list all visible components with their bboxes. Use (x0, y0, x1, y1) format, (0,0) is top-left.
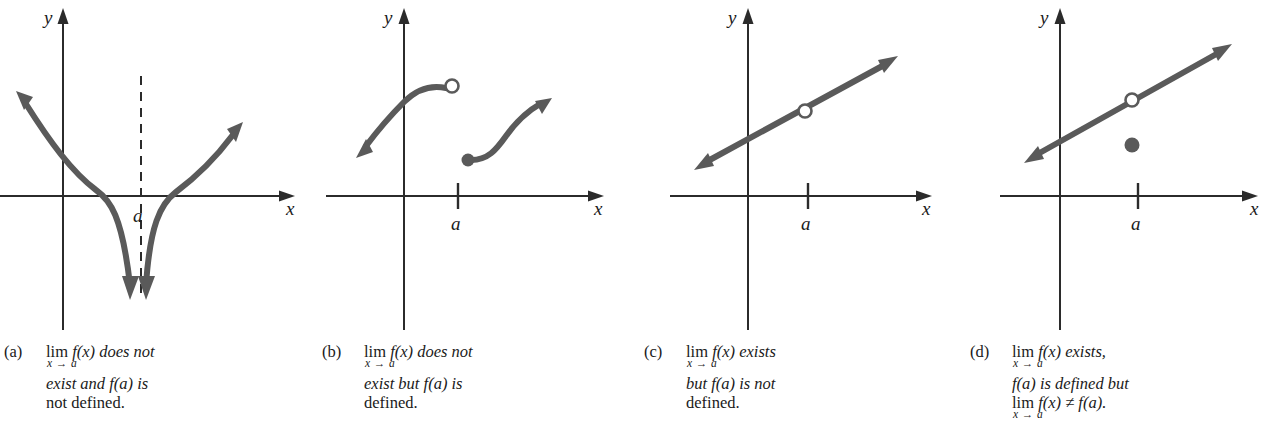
limit-operator: limx → a (364, 344, 386, 361)
arrowhead-downleft-c (694, 153, 714, 170)
filled-dot-d (1125, 138, 1140, 153)
curve-left-branch-a (26, 104, 130, 285)
caption-line: exist and f(a) is (46, 376, 318, 393)
caption-line-tail: f(x) does not (390, 342, 472, 361)
tick-label-d: a (1131, 213, 1141, 234)
caption-line-tail: f(x) exists, (1038, 342, 1106, 361)
curve-right-branch-b (471, 104, 540, 160)
caption-line-tail: f(x) ≠ f(a). (1038, 393, 1106, 412)
filled-dot-b (462, 154, 475, 167)
caption-line: limx → a f(x) exists, (1012, 344, 1271, 374)
panel-b: y x a (b) limx → a f(x) does not exi (318, 0, 636, 447)
axes-b (326, 8, 604, 330)
caption-line: limx → a f(x) does not (364, 344, 636, 374)
graph-d: y x a (958, 0, 1271, 340)
axes-c (670, 8, 932, 330)
caption-line-tail: f(x) does not (72, 342, 154, 361)
caption-line: f(a) is defined but (1012, 376, 1271, 393)
graph-a: y x a (0, 0, 318, 340)
panel-d: y x a (d) limx → a f(x) exists, f(a) is … (958, 0, 1271, 447)
caption-a: (a) limx → a f(x) does not exist and f(a… (0, 344, 318, 411)
caption-line: limx → a f(x) ≠ f(a). (1012, 395, 1271, 412)
panel-a: y x a (a) limx → a f(x) does not exi (0, 0, 318, 447)
open-circle-b (446, 80, 459, 93)
graph-c: y x a (640, 0, 958, 340)
arrowhead-down-left-a (122, 276, 139, 300)
line-c (706, 64, 886, 162)
caption-line: limx → a f(x) does not (46, 344, 318, 374)
panel-c: y x a (c) limx → a f(x) exists but f(a) … (640, 0, 958, 447)
x-axis-label-a: x (285, 198, 295, 219)
limit-operator: limx → a (1012, 395, 1034, 412)
tick-label-c: a (801, 213, 811, 234)
x-axis-label-d: x (1249, 198, 1259, 219)
limit-cases-figure: y x a (a) limx → a f(x) does not exi (0, 0, 1271, 447)
caption-tag-d: (d) (958, 344, 1012, 361)
open-circle-c (799, 105, 812, 118)
curve-right-branch-a (146, 136, 232, 285)
caption-line-tail: f(x) exists (712, 342, 776, 361)
tick-label-a: a (133, 205, 143, 226)
tick-label-b: a (451, 213, 461, 234)
arrowhead-upright-d (1212, 44, 1232, 61)
arrowhead-upright-c (878, 56, 898, 73)
caption-line: exist but f(a) is (364, 376, 636, 393)
caption-d: (d) limx → a f(x) exists, f(a) is define… (958, 344, 1271, 411)
caption-line: defined. (364, 395, 636, 412)
caption-line: not defined. (46, 395, 318, 412)
open-circle-d (1126, 94, 1139, 107)
caption-tag-b: (b) (318, 344, 364, 361)
x-axis-label-b: x (593, 198, 603, 219)
x-axis-label-c: x (921, 198, 931, 219)
y-axis-label-d: y (1038, 7, 1049, 28)
y-axis-label-a: y (42, 7, 53, 28)
caption-line: defined. (686, 395, 958, 412)
curve-left-branch-b (366, 87, 446, 146)
limit-operator: limx → a (46, 344, 68, 361)
caption-tag-a: (a) (0, 344, 46, 361)
caption-line: but f(a) is not (686, 376, 958, 393)
arrowhead-downleft-d (1024, 146, 1044, 163)
caption-b: (b) limx → a f(x) does not exist but f(a… (318, 344, 636, 411)
caption-c: (c) limx → a f(x) exists but f(a) is not… (640, 344, 958, 411)
caption-tag-c: (c) (640, 344, 686, 361)
graph-b: y x a (318, 0, 636, 340)
caption-line: limx → a f(x) exists (686, 344, 958, 374)
y-axis-label-b: y (382, 7, 393, 28)
limit-operator: limx → a (686, 344, 708, 361)
limit-operator: limx → a (1012, 344, 1034, 361)
y-axis-label-c: y (726, 7, 737, 28)
